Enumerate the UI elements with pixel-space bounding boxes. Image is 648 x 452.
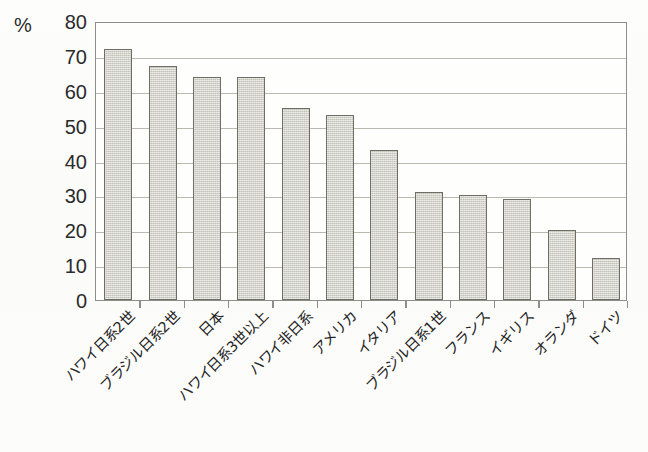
y-axis-tick-label: 40 [47, 152, 87, 172]
bar [503, 199, 531, 300]
bar [104, 49, 132, 300]
y-axis-tick-label: 10 [47, 256, 87, 276]
x-axis-category-label: ドイツ [586, 309, 626, 349]
y-axis: 80706050403020100 [45, 0, 87, 452]
y-axis-tick-label: 70 [47, 47, 87, 67]
x-axis-tick [494, 301, 495, 308]
x-axis-tick [184, 301, 185, 308]
y-axis-tick-label: 30 [47, 186, 87, 206]
bar [193, 77, 221, 300]
x-axis-category-label: アメリカ [311, 309, 360, 358]
bar [237, 77, 265, 300]
x-axis-tick [361, 301, 362, 308]
x-axis-tick [317, 301, 318, 308]
x-axis-category-label: オランダ [531, 309, 580, 358]
bar [149, 66, 177, 300]
y-axis-tick-label: 0 [47, 291, 87, 311]
bar [592, 258, 620, 300]
x-axis-tick [627, 301, 628, 308]
x-axis-tick [139, 301, 140, 308]
y-axis-tick-label: 50 [47, 117, 87, 137]
x-axis-tick [450, 301, 451, 308]
bar [415, 192, 443, 300]
bar [282, 108, 310, 300]
bar [370, 150, 398, 300]
bar [548, 230, 576, 300]
x-axis-tick [228, 301, 229, 308]
x-axis-tick [272, 301, 273, 308]
bar [459, 195, 487, 300]
bar-chart: % 80706050403020100 ハワイ日系2世ブラジル日系2世日本ハワイ… [0, 0, 648, 452]
y-axis-tick-label: 80 [47, 12, 87, 32]
x-axis-category-label: フランス [443, 309, 492, 358]
x-axis-category-label: ブラジル日系1世 [363, 309, 448, 394]
bar [326, 115, 354, 300]
y-axis-tick-label: 60 [47, 82, 87, 102]
x-axis-category-label: イギリス [487, 309, 536, 358]
x-axis-ticks [95, 301, 627, 309]
x-axis-category-label: ブラジル日系2世 [97, 309, 182, 394]
x-axis-category-labels: ハワイ日系2世ブラジル日系2世日本ハワイ日系3世以上ハワイ非日系アメリカイタリア… [95, 309, 648, 452]
x-axis-tick [405, 301, 406, 308]
x-axis-category-label: 日本 [196, 309, 226, 339]
y-axis-tick-label: 20 [47, 221, 87, 241]
plot-area [95, 22, 627, 301]
x-axis-tick [583, 301, 584, 308]
x-axis-tick [538, 301, 539, 308]
bars-group [96, 23, 626, 300]
y-axis-unit-label: % [14, 14, 32, 37]
